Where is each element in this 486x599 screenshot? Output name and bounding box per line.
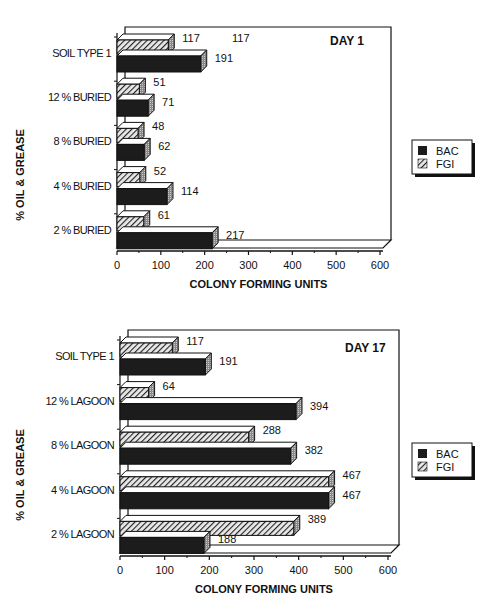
x-tick-label: 400: [283, 259, 301, 271]
bar-bac: [120, 398, 302, 420]
chart-day-17: 0100200300400500600COLONY FORMING UNITS%…: [14, 330, 475, 595]
x-tick-label: 100: [152, 259, 170, 271]
bar-bac: [117, 227, 218, 249]
category-label: 8 % LAGOON: [51, 439, 115, 451]
fgi-value-label: 61: [158, 209, 170, 221]
bac-value-label: 394: [310, 400, 328, 412]
bac-value-label: 467: [343, 489, 361, 501]
x-tick-label: 500: [327, 259, 345, 271]
category-label: SOIL TYPE 1: [55, 350, 114, 362]
x-tick-label: 300: [245, 564, 263, 576]
fgi-value-label: 117: [182, 32, 200, 44]
bar-bac: [117, 138, 150, 160]
bar-bac: [120, 531, 210, 553]
category-label: 8 % BURIED: [53, 135, 111, 147]
legend-label-bac: BAC: [436, 145, 459, 157]
fgi-value-label: 48: [152, 120, 164, 132]
x-tick-label: 200: [200, 564, 218, 576]
legend-label-fgi: FGI: [436, 461, 454, 473]
x-tick-label: 0: [117, 564, 123, 576]
chart-day-1: 0100200300400500600COLONY FORMING UNITS%…: [14, 27, 475, 290]
chart-title: DAY 17: [345, 341, 386, 355]
bar-bac: [117, 183, 173, 205]
bac-value-label: 191: [219, 355, 237, 367]
y-axis-title: % OIL & GREASE: [14, 429, 26, 520]
bac-value-label: 62: [158, 140, 170, 152]
category-label: 2 % BURIED: [53, 224, 111, 236]
bar-bac: [120, 487, 335, 509]
legend: BACFGI: [412, 140, 475, 177]
x-tick-label: 500: [334, 564, 352, 576]
bar-bac: [120, 442, 297, 464]
fgi-value-label: 117: [186, 335, 204, 347]
category-label: 4 % BURIED: [53, 180, 111, 192]
category-label: SOIL TYPE 1: [52, 47, 111, 59]
category-label: 12 % LAGOON: [45, 395, 114, 407]
legend-swatch-bac: [418, 146, 427, 155]
bac-value-label: 188: [218, 533, 236, 545]
fgi-value-label: 52: [154, 165, 166, 177]
category-label: 12 % BURIED: [48, 91, 112, 103]
x-axis-title: COLONY FORMING UNITS: [195, 583, 333, 595]
legend: BACFGI: [412, 443, 475, 480]
legend-label-fgi: FGI: [436, 158, 454, 170]
x-tick-label: 400: [289, 564, 307, 576]
x-tick-label: 600: [371, 259, 389, 271]
fgi-value-label: 389: [308, 513, 326, 525]
category-label: 4 % LAGOON: [51, 484, 115, 496]
y-axis-title: % OIL & GREASE: [14, 129, 26, 220]
figure-canvas: 0100200300400500600COLONY FORMING UNITS%…: [0, 0, 486, 599]
bac-value-label: 114: [181, 185, 199, 197]
bar-bac: [120, 353, 211, 375]
chart-title: DAY 1: [330, 34, 364, 48]
x-axis-title: COLONY FORMING UNITS: [190, 278, 328, 290]
fgi-value-label: 51: [153, 76, 165, 88]
bac-value-label: 382: [305, 444, 323, 456]
fgi-value-label: 288: [263, 424, 281, 436]
bac-value-label: 191: [215, 52, 233, 64]
x-tick-label: 300: [239, 259, 257, 271]
legend-swatch-bac: [418, 449, 427, 458]
legend-label-bac: BAC: [436, 448, 459, 460]
fgi-value-label: 467: [343, 469, 361, 481]
extra-value-label: 117: [232, 32, 250, 44]
bar-bac: [117, 50, 207, 72]
category-label: 2 % LAGOON: [51, 528, 115, 540]
x-tick-label: 600: [379, 564, 397, 576]
legend-swatch-fgi: [418, 159, 427, 168]
x-tick-label: 100: [155, 564, 173, 576]
legend-swatch-fgi: [418, 462, 427, 471]
fgi-value-label: 64: [163, 380, 175, 392]
x-tick-label: 0: [114, 259, 120, 271]
x-tick-label: 200: [195, 259, 213, 271]
bac-value-label: 71: [162, 96, 174, 108]
bar-bac: [117, 94, 154, 116]
bac-value-label: 217: [226, 229, 244, 241]
